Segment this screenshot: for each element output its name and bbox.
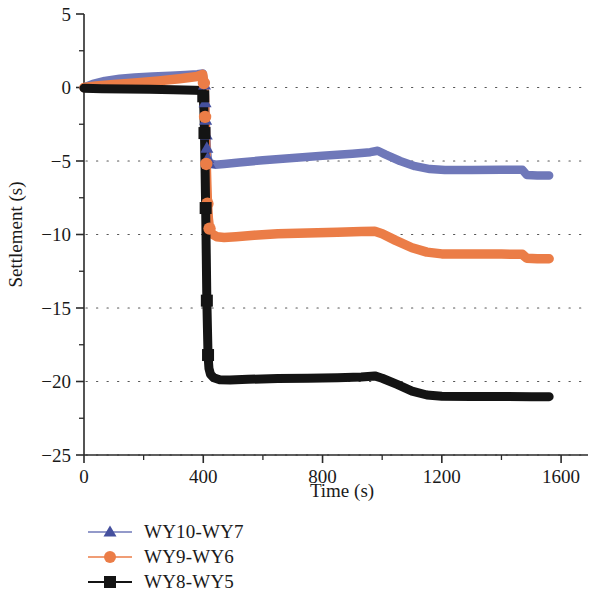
- chart-legend: WY10-WY7 WY9-WY6 WY8-WY5: [86, 519, 346, 594]
- y-tick-label--20: −20: [41, 371, 71, 392]
- data-marker-circle: [199, 111, 211, 123]
- y-tick-label--15: −15: [41, 298, 71, 319]
- y-tick-label-5: 5: [62, 4, 72, 25]
- data-marker-square: [197, 90, 209, 102]
- x-tick-label-0: 0: [79, 466, 89, 487]
- settlement-vs-time-chart: 50−5−10−15−20−25040080012001600Time (s)S…: [0, 0, 604, 596]
- y-tick-label-0: 0: [62, 77, 72, 98]
- y-tick-label--10: −10: [41, 224, 71, 245]
- data-marker-circle: [200, 158, 212, 170]
- legend-marker-circle-icon: [86, 546, 134, 568]
- x-tick-label-1200: 1200: [423, 466, 461, 487]
- legend-label-wy10-wy7: WY10-WY7: [144, 521, 244, 543]
- legend-label-wy8-wy5: WY8-WY5: [144, 571, 234, 593]
- y-axis-title: Settlement (s): [5, 181, 27, 287]
- series-wy8-wy5: [84, 88, 549, 396]
- data-marker-square: [202, 349, 214, 361]
- data-marker-square: [200, 202, 212, 214]
- legend-marker-triangle-icon: [86, 521, 134, 543]
- plot-canvas: 50−5−10−15−20−25040080012001600Time (s)S…: [0, 0, 604, 596]
- y-tick-label--5: −5: [51, 151, 71, 172]
- x-tick-label-400: 400: [189, 466, 218, 487]
- legend-marker-square-icon: [86, 571, 134, 593]
- x-tick-label-1600: 1600: [542, 466, 580, 487]
- legend-label-wy9-wy6: WY9-WY6: [144, 546, 234, 568]
- data-marker-circle: [203, 222, 215, 234]
- data-marker-square: [198, 127, 210, 139]
- data-marker-square: [201, 295, 213, 307]
- data-marker-circle: [198, 77, 210, 89]
- legend-item-wy9-wy6: WY9-WY6: [86, 544, 346, 569]
- y-tick-label--25: −25: [41, 445, 71, 466]
- x-axis-title: Time (s): [310, 480, 374, 502]
- legend-item-wy8-wy5: WY8-WY5: [86, 569, 346, 594]
- legend-item-wy10-wy7: WY10-WY7: [86, 519, 346, 544]
